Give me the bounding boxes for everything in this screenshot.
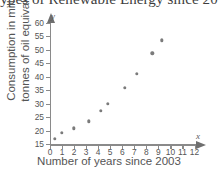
data-point bbox=[60, 131, 63, 134]
x-axis-letter: x bbox=[196, 131, 200, 141]
y-axis-tick-label: 20 bbox=[32, 126, 44, 136]
x-axis-tick-label: 6 bbox=[120, 147, 125, 157]
y-axis-tick-label: 35 bbox=[32, 85, 44, 95]
data-point bbox=[151, 51, 154, 54]
chart-container: ypes of Renewable Energy since 20 Consum… bbox=[0, 0, 218, 171]
x-axis-tick-label: 0 bbox=[48, 147, 53, 157]
y-axis-tick-label: 30 bbox=[32, 99, 44, 109]
y-axis-line bbox=[50, 22, 51, 145]
y-axis-tick-label: 25 bbox=[32, 112, 44, 122]
y-axis-tick-label: 40 bbox=[32, 72, 44, 82]
data-point bbox=[106, 102, 109, 105]
y-axis-tick bbox=[46, 23, 50, 24]
data-point bbox=[123, 86, 126, 89]
y-axis-tick bbox=[46, 104, 50, 105]
x-axis-tick-label: 12 bbox=[190, 147, 199, 157]
x-axis-tick-label: 2 bbox=[72, 147, 77, 157]
y-axis-letter: y bbox=[51, 11, 55, 21]
x-axis-tick-label: 4 bbox=[96, 147, 101, 157]
y-axis-tick bbox=[46, 117, 50, 118]
data-point bbox=[53, 137, 56, 140]
y-axis-tick bbox=[46, 131, 50, 132]
x-axis-tick-label: 3 bbox=[84, 147, 89, 157]
x-axis-tick-label: 11 bbox=[178, 147, 187, 157]
y-axis-tick bbox=[46, 63, 50, 64]
data-point bbox=[72, 126, 75, 129]
x-axis-tick-label: 1 bbox=[60, 147, 65, 157]
y-axis-tick-label: 45 bbox=[32, 58, 44, 68]
data-point bbox=[87, 120, 90, 123]
y-axis-tick bbox=[46, 50, 50, 51]
x-axis-tick-label: 5 bbox=[108, 147, 113, 157]
x-axis-line bbox=[50, 144, 198, 145]
plot-area: y x 152025303540455055600123456789101112 bbox=[0, 0, 218, 171]
x-axis-tick-label: 9 bbox=[156, 147, 161, 157]
y-axis-tick bbox=[46, 36, 50, 37]
y-axis-tick-label: 55 bbox=[32, 31, 44, 41]
y-axis-tick-label: 50 bbox=[32, 45, 44, 55]
data-point bbox=[135, 72, 138, 75]
x-axis-tick-label: 8 bbox=[144, 147, 149, 157]
y-axis-tick bbox=[46, 77, 50, 78]
data-point bbox=[99, 109, 102, 112]
x-axis-tick-label: 10 bbox=[166, 147, 175, 157]
y-axis-tick-label: 60 bbox=[32, 18, 44, 28]
y-axis-tick-label: 15 bbox=[32, 139, 44, 149]
y-axis-tick bbox=[46, 90, 50, 91]
data-point bbox=[160, 38, 163, 41]
x-axis-tick-label: 7 bbox=[132, 147, 137, 157]
